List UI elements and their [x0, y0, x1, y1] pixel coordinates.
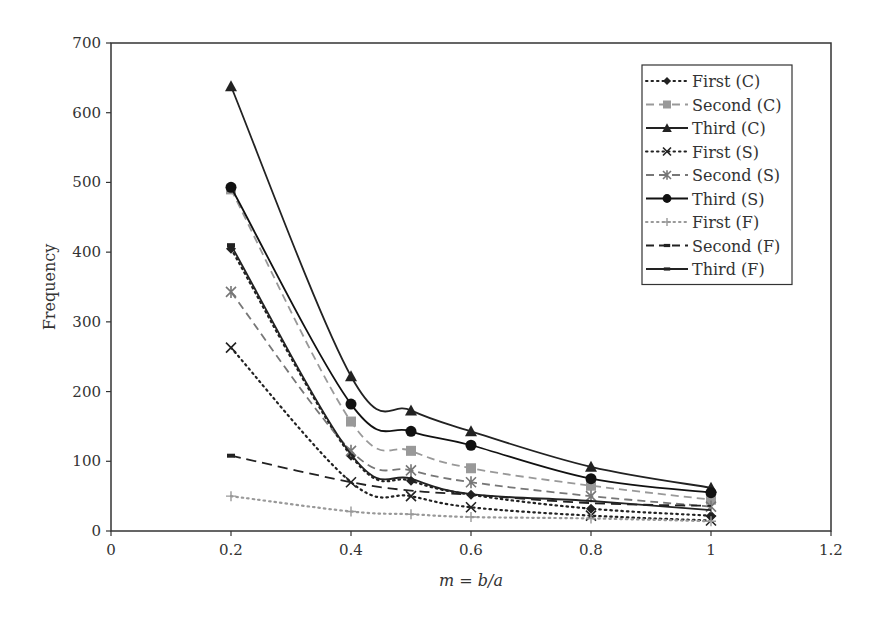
plus-marker-icon [346, 506, 356, 516]
dash-marker-icon [227, 243, 235, 247]
y-tick-label: 300 [72, 313, 101, 331]
frequency-chart: 0100200300400500600700 00.20.40.60.811.2… [0, 0, 882, 618]
plus-marker-icon [466, 512, 476, 522]
series-second-s [226, 286, 716, 513]
star-marker-icon [226, 286, 236, 298]
square-marker-icon [346, 417, 356, 427]
square-marker-icon [406, 446, 416, 456]
circle-marker-icon [466, 440, 477, 451]
square-marker-icon [663, 101, 671, 109]
legend-label: First (F) [692, 213, 759, 232]
x-tick-label: 0.8 [579, 541, 603, 559]
x-tick-label: 0.4 [339, 541, 363, 559]
x-marker-icon [226, 343, 236, 353]
triangle-marker-icon [345, 370, 357, 381]
circle-marker-icon [663, 194, 672, 203]
x-tick-label: 0.6 [459, 541, 483, 559]
legend-label: Third (S) [692, 190, 765, 209]
legend-label: First (C) [692, 72, 760, 91]
legend-label: Third (F) [692, 260, 765, 279]
legend: First (C)Second (C)Third (C)First (S)Sec… [642, 65, 792, 285]
triangle-marker-icon [405, 404, 417, 415]
circle-marker-icon [226, 182, 237, 193]
y-axis: 0100200300400500600700 [72, 34, 111, 540]
legend-label: Second (F) [692, 237, 780, 256]
plus-marker-icon [406, 509, 416, 519]
y-tick-label: 400 [72, 243, 101, 261]
y-tick-label: 100 [72, 452, 101, 470]
legend-label: Second (S) [692, 166, 780, 185]
square-marker-icon [466, 463, 476, 473]
legend-label: Second (C) [692, 96, 781, 115]
dash-marker-icon [664, 244, 670, 247]
x-axis-label: m = b/a [439, 571, 503, 590]
legend-label: Third (C) [692, 119, 766, 138]
x-tick-label: 1 [706, 541, 716, 559]
dash-marker-icon [664, 267, 670, 270]
y-tick-label: 200 [72, 383, 101, 401]
x-tick-label: 0.2 [219, 541, 243, 559]
circle-marker-icon [346, 399, 357, 410]
legend-label: First (S) [692, 143, 759, 162]
triangle-marker-icon [225, 80, 237, 91]
x-tick-label: 1.2 [819, 541, 843, 559]
x-tick-label: 0 [106, 541, 116, 559]
y-tick-label: 600 [72, 104, 101, 122]
y-tick-label: 700 [72, 34, 101, 52]
circle-marker-icon [586, 473, 597, 484]
series-line [231, 189, 711, 499]
chart-canvas: 0100200300400500600700 00.20.40.60.811.2… [0, 0, 882, 618]
x-axis: 00.20.40.60.811.2 [106, 531, 843, 559]
y-tick-label: 500 [72, 173, 101, 191]
y-tick-label: 0 [91, 522, 101, 540]
dash-marker-icon [227, 454, 235, 458]
y-axis-label: Frequency [40, 244, 59, 331]
plus-marker-icon [226, 491, 236, 501]
circle-marker-icon [706, 487, 717, 498]
circle-marker-icon [406, 426, 417, 437]
